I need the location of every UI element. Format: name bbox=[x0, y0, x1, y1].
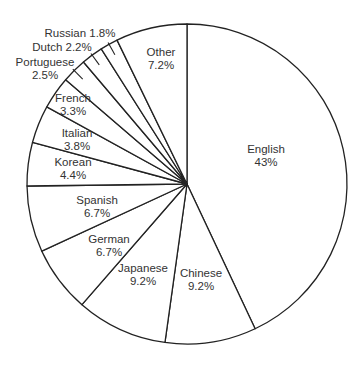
label-percent: 9.2% bbox=[188, 280, 214, 292]
label-percent: 6.7% bbox=[84, 207, 110, 219]
label-category: German bbox=[88, 233, 130, 245]
slice-label-russian: Russian 1.8% bbox=[45, 27, 116, 39]
label-percent: 3.3% bbox=[60, 105, 86, 117]
pie-chart: English43%Chinese9.2%Japanese9.2%German6… bbox=[0, 0, 361, 365]
label-category: Spanish bbox=[76, 194, 118, 206]
label-percent: 43% bbox=[254, 156, 277, 168]
label-percent: 3.8% bbox=[64, 140, 90, 152]
label-category: Chinese bbox=[180, 267, 222, 279]
label-category: Korean bbox=[54, 156, 91, 168]
slice-label-dutch: Dutch 2.2% bbox=[32, 41, 91, 53]
label-percent: 2.5% bbox=[32, 69, 58, 81]
slice-label-portuguese: Portuguese2.5% bbox=[16, 56, 75, 81]
slice-label-korean: Korean4.4% bbox=[54, 156, 91, 181]
label-category: Portuguese bbox=[16, 56, 75, 68]
slice-label-other: Other7.2% bbox=[147, 46, 176, 71]
label-category: Italian bbox=[62, 127, 93, 139]
label-category: English bbox=[247, 143, 285, 155]
label-category: Other bbox=[147, 46, 176, 58]
label-percent: 7.2% bbox=[148, 59, 174, 71]
slice-label-french: French3.3% bbox=[55, 92, 91, 117]
slice-label-italian: Italian3.8% bbox=[62, 127, 93, 152]
label-percent: 9.2% bbox=[130, 275, 156, 287]
label-category: Japanese bbox=[118, 262, 168, 274]
label-category: French bbox=[55, 92, 91, 104]
label-percent: 6.7% bbox=[96, 246, 122, 258]
label-percent: 4.4% bbox=[60, 169, 86, 181]
